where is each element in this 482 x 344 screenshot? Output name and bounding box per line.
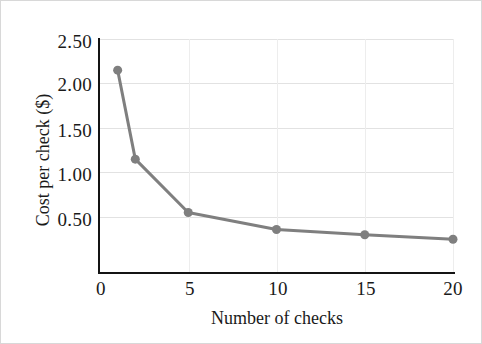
chart-figure: 2.50 2.00 1.50 1.00 0.50 0 5 10 15 20 Nu…: [0, 0, 482, 344]
gridline-x-10: [277, 39, 278, 273]
x-tick-label-15: 15: [336, 279, 396, 299]
y-axis-line: [98, 38, 100, 274]
x-axis-title: Number of checks: [100, 307, 454, 329]
x-tick-label-10: 10: [248, 279, 308, 299]
x-tick-label-20: 20: [423, 279, 482, 299]
gridline-x-20: [453, 39, 454, 273]
gridline-x-15: [365, 39, 366, 273]
y-axis-title: Cost per check ($): [32, 50, 54, 270]
x-axis-line: [98, 272, 455, 274]
gridline-x-5: [189, 39, 190, 273]
plot-area: [100, 39, 454, 273]
x-tick-label-0: 0: [71, 279, 131, 299]
y-tick-label-2-50: 2.50: [32, 32, 92, 51]
x-tick-label-5: 5: [160, 279, 220, 299]
